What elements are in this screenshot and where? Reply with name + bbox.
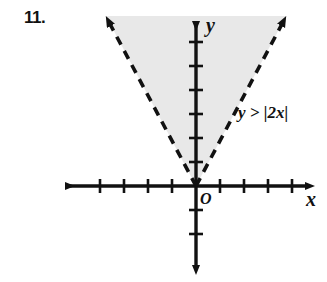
- x-axis-label: x: [305, 188, 316, 210]
- origin-label: O: [200, 190, 212, 207]
- y-axis-label: y: [204, 14, 215, 37]
- x-axis: [66, 179, 306, 193]
- graph-figure: 11.: [0, 0, 327, 282]
- coordinate-plane: y x O y > |2x|: [0, 0, 327, 282]
- inequality-label: y > |2x|: [236, 103, 288, 122]
